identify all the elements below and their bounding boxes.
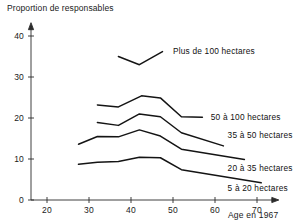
x-tick-label: 20 — [42, 205, 52, 215]
series-line-2 — [97, 96, 202, 117]
series-line-1 — [118, 52, 162, 65]
x-axis-title: Age en 1967 — [228, 210, 278, 220]
y-axis-arrow — [28, 23, 33, 30]
series-label-3: 35 à 50 hectares — [228, 130, 293, 140]
y-tick-label: 10 — [14, 154, 24, 164]
x-tick-label: 50 — [168, 205, 178, 215]
y-tick-label: 0 — [19, 195, 24, 205]
series-label-1: Plus de 100 hectares — [173, 46, 255, 56]
series-label-2: 50 à 100 hectares — [211, 112, 281, 122]
x-axis-arrow — [272, 197, 279, 202]
series-label-4: 20 à 35 hectares — [228, 163, 293, 173]
x-tick-label: 60 — [210, 205, 220, 215]
y-tick-label: 40 — [14, 31, 24, 41]
y-tick-label: 20 — [14, 113, 24, 123]
series-label-5: 5 à 20 hectares — [228, 183, 288, 193]
chart-figure: Proportion de responsables 010203040 203… — [0, 0, 302, 224]
y-tick-label: 30 — [14, 72, 24, 82]
x-tick-label: 40 — [126, 205, 136, 215]
series-line-3 — [97, 114, 223, 146]
x-tick-label: 30 — [84, 205, 94, 215]
line-chart-plot: 010203040 203040506070 Plus de 100 hecta… — [0, 0, 302, 224]
